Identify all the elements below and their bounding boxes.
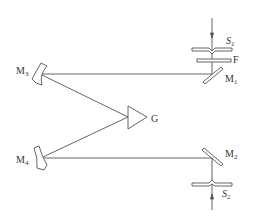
optical-diagram: S1 F M1 M3 G M4 M2 S2: [0, 0, 253, 224]
filter-f: [197, 59, 231, 62]
mirror-m2: [202, 148, 223, 166]
label-g: G: [151, 113, 158, 124]
label-m3: M3: [16, 65, 29, 78]
incoming-arrow-icon: [211, 33, 214, 38]
diagram-canvas: S1 F M1 M3 G M4 M2 S2: [0, 0, 253, 224]
beam-m3-g: [42, 75, 128, 117]
beam-g-m4: [43, 117, 128, 157]
label-m2: M2: [225, 148, 238, 161]
label-f: F: [233, 54, 239, 65]
label-m4: M4: [16, 154, 29, 167]
label-s1: S1: [226, 35, 235, 48]
label-s2: S2: [222, 188, 231, 201]
label-m1: M1: [225, 73, 238, 86]
outgoing-arrow-icon: [211, 194, 214, 199]
prism-g: [128, 106, 147, 129]
mirror-m1: [203, 67, 223, 84]
